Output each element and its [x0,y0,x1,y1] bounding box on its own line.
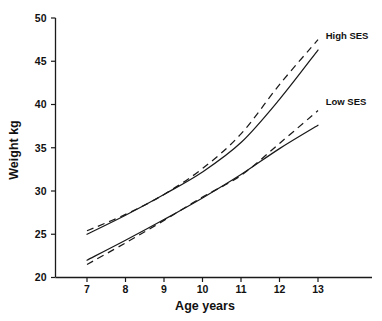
x-tick-marks [87,278,318,283]
x-axis-title: Age years [175,299,235,313]
series-annotations: High SESLow SES [326,30,369,107]
series-curves [87,40,318,265]
series-curve-low-ses-solid [87,125,318,260]
y-tick-label: 40 [35,98,47,110]
x-tick-labels: 78910111213 [84,283,324,295]
y-tick-label: 20 [35,271,47,283]
x-tick-label: 7 [84,283,90,295]
low-ses-label: Low SES [326,96,367,107]
y-tick-label: 30 [35,185,47,197]
x-tick-label: 12 [274,283,286,295]
series-curve-high-ses-dashed [87,40,318,231]
y-tick-label: 35 [35,142,47,154]
y-tick-marks [51,18,56,278]
x-tick-label: 9 [161,283,167,295]
high-ses-label: High SES [326,30,369,41]
y-axis: 20253035404550 [35,12,56,284]
y-tick-label: 25 [35,228,47,240]
x-tick-label: 8 [123,283,129,295]
y-tick-label: 50 [35,12,47,24]
series-curve-high-ses-solid [87,50,318,234]
x-tick-label: 13 [312,283,324,295]
chart-canvas: 20253035404550 78910111213 High SESLow S… [0,0,382,321]
y-tick-labels: 20253035404550 [35,12,47,284]
series-curve-low-ses-dashed [87,111,318,265]
y-axis-title: Weight kg [7,120,21,180]
x-axis: 78910111213 [56,278,373,296]
x-tick-label: 10 [197,283,209,295]
y-tick-label: 45 [35,55,47,67]
weight-by-age-chart: 20253035404550 78910111213 High SESLow S… [0,0,382,321]
x-tick-label: 11 [235,283,246,295]
